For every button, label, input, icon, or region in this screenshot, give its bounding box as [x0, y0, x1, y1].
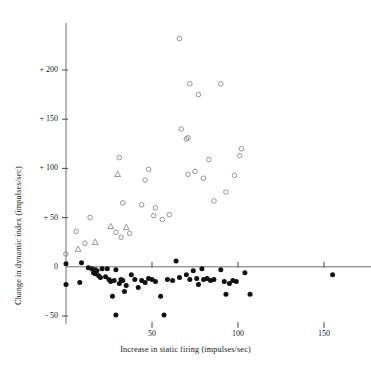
data-point-filled-circle	[187, 277, 192, 282]
data-point-filled-circle	[120, 278, 125, 283]
data-point-open-circle	[196, 92, 201, 97]
x-tick-label: 50	[132, 329, 172, 338]
data-point-filled-circle	[98, 275, 103, 280]
data-point-open-circle	[160, 217, 165, 222]
data-point-open-circle	[232, 173, 237, 178]
data-point-filled-circle	[143, 280, 148, 285]
data-point-filled-circle	[79, 260, 84, 265]
y-tick-label: + 200	[18, 65, 58, 74]
data-point-filled-circle	[100, 266, 105, 271]
x-tick-label: 100	[218, 329, 258, 338]
data-point-filled-circle	[129, 272, 134, 277]
data-point-open-circle	[127, 231, 132, 236]
data-point-open-circle	[143, 178, 148, 183]
y-tick-label: 0	[18, 262, 58, 271]
data-point-open-circle	[88, 215, 93, 220]
data-point-filled-circle	[242, 270, 247, 275]
data-point-open-circle	[224, 190, 229, 195]
data-point-filled-circle	[132, 277, 137, 282]
data-point-filled-circle	[177, 275, 182, 280]
data-point-open-circle	[117, 155, 122, 160]
y-tick-label: + 100	[18, 163, 58, 172]
data-point-filled-circle	[153, 279, 158, 284]
data-point-filled-circle	[136, 285, 141, 290]
x-axis-title: Increase in static firing (impulses/sec)	[0, 345, 371, 354]
data-point-filled-circle	[222, 279, 227, 284]
data-point-open-circle	[237, 153, 242, 158]
data-point-open-circle	[177, 36, 182, 41]
data-point-open-circle	[212, 199, 217, 204]
data-point-filled-circle	[211, 277, 216, 282]
data-point-open-triangle	[115, 171, 121, 176]
data-point-filled-circle	[248, 292, 253, 297]
data-point-filled-circle	[165, 277, 170, 282]
data-points	[64, 36, 336, 317]
data-point-open-triangle	[123, 224, 129, 229]
data-point-filled-circle	[330, 272, 335, 277]
tick-marks	[62, 70, 324, 328]
data-point-open-triangle	[92, 239, 98, 244]
data-point-filled-circle	[184, 272, 189, 277]
data-point-filled-circle	[113, 313, 118, 318]
data-point-open-circle	[139, 203, 144, 208]
data-point-open-circle	[219, 81, 224, 86]
data-point-open-circle	[83, 241, 88, 246]
data-point-open-circle	[239, 146, 244, 151]
data-point-open-circle	[119, 235, 124, 240]
data-point-filled-circle	[196, 282, 201, 287]
data-point-filled-circle	[191, 268, 196, 273]
data-point-filled-circle	[194, 276, 199, 281]
data-point-open-circle	[193, 169, 198, 174]
data-point-filled-circle	[122, 289, 127, 294]
data-point-filled-circle	[112, 278, 117, 283]
data-point-filled-circle	[174, 258, 179, 263]
y-tick-label: + 50	[18, 213, 58, 222]
data-point-filled-circle	[113, 267, 118, 272]
data-point-filled-circle	[77, 280, 82, 285]
y-axis-title: Change in dynamic index (impulses/sec)	[14, 166, 23, 305]
data-point-filled-circle	[170, 278, 175, 283]
y-tick-label: - 50	[18, 311, 58, 320]
y-tick-label: + 150	[18, 114, 58, 123]
data-point-filled-circle	[110, 294, 115, 299]
data-point-filled-circle	[199, 266, 204, 271]
axes	[66, 23, 371, 324]
data-point-open-circle	[153, 205, 158, 210]
data-point-open-circle	[188, 81, 193, 86]
data-point-open-triangle	[108, 223, 114, 228]
data-point-filled-circle	[124, 283, 129, 288]
data-point-open-circle	[179, 127, 184, 132]
data-point-open-circle	[167, 212, 172, 217]
data-point-open-circle	[206, 157, 211, 162]
scatter-plot-figure: Increase in static firing (impulses/sec)…	[0, 0, 371, 368]
data-point-filled-circle	[218, 267, 223, 272]
data-point-filled-circle	[94, 268, 99, 273]
data-point-open-triangle	[75, 246, 81, 251]
data-point-open-circle	[146, 167, 151, 172]
x-tick-label: 150	[304, 329, 344, 338]
data-point-filled-circle	[223, 292, 228, 297]
data-point-filled-circle	[158, 294, 163, 299]
data-point-open-circle	[186, 172, 191, 177]
data-point-filled-circle	[105, 266, 110, 271]
data-point-filled-circle	[64, 261, 69, 266]
data-point-filled-circle	[234, 279, 239, 284]
data-point-open-circle	[201, 176, 206, 181]
data-point-open-circle	[114, 230, 119, 235]
data-point-open-circle	[74, 229, 79, 234]
data-point-filled-circle	[64, 282, 69, 287]
data-point-open-circle	[151, 213, 156, 218]
data-point-filled-circle	[162, 313, 167, 318]
data-point-open-circle	[120, 201, 125, 206]
